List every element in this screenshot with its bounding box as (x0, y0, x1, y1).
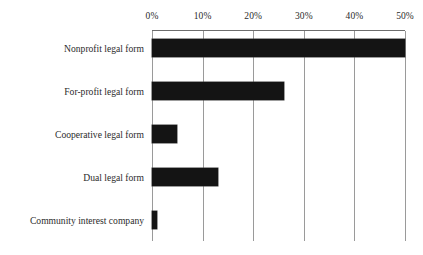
x-axis-tick-label: 20% (244, 10, 262, 23)
x-axis-tick-label: 10% (194, 10, 212, 23)
bar (152, 168, 218, 186)
y-axis-category-label: For-profit legal form (64, 86, 144, 98)
bar (152, 211, 157, 229)
x-axis-tick-label: 40% (346, 10, 364, 23)
bars-layer (152, 30, 405, 241)
x-axis-tick-label: 50% (396, 10, 414, 23)
y-axis-category-label: Nonprofit legal form (64, 43, 144, 55)
bar (152, 125, 177, 143)
bar (152, 39, 405, 57)
x-axis-tick-label: 0% (146, 10, 159, 23)
bar (152, 82, 284, 100)
plot-area (152, 30, 405, 241)
y-axis-category-label-group: Nonprofit legal form For-profit legal fo… (0, 30, 148, 241)
gridline-50 (405, 31, 406, 241)
x-axis-tick-label-group: 0% 10% 20% 30% 40% 50% (0, 10, 423, 24)
bar-chart: 0% 10% 20% 30% 40% 50% Nonprofit legal f… (0, 0, 423, 255)
y-axis-category-label: Dual legal form (83, 172, 144, 184)
y-axis-category-label: Cooperative legal form (55, 129, 144, 141)
x-axis-tick-label: 30% (295, 10, 313, 23)
y-axis-category-label: Community interest company (30, 215, 144, 227)
